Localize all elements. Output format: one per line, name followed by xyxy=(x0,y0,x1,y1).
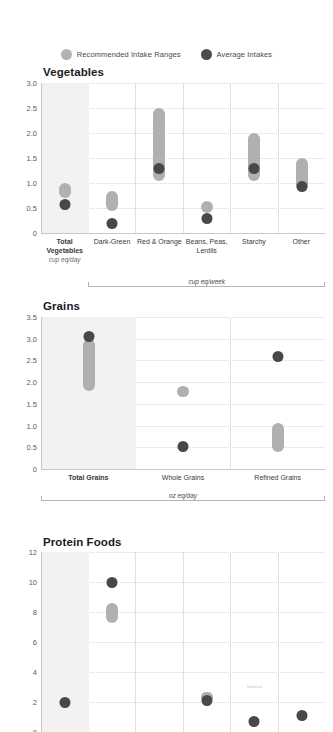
y-axis-tick-label: 1.5 xyxy=(27,154,42,163)
average-intake-dot[interactable] xyxy=(201,213,212,224)
y-axis-tick-label: 0.5 xyxy=(27,443,42,452)
chart-columns: National xyxy=(42,552,325,732)
y-axis-tick-label: 2.5 xyxy=(27,104,42,113)
chart-column[interactable] xyxy=(231,317,325,469)
y-axis-tick-label: 2.0 xyxy=(27,378,42,387)
legend-item-recommended-ranges: Recommended Intake Ranges xyxy=(61,49,181,60)
chart-column[interactable] xyxy=(231,83,279,233)
legend-label-average-intakes: Average Intakes xyxy=(217,50,273,59)
y-axis-tick-label: 10 xyxy=(29,578,42,587)
x-axis-tick-label: Whole Grains xyxy=(136,474,231,483)
recommended-range-bar[interactable] xyxy=(59,183,71,198)
chart-column[interactable] xyxy=(42,552,89,732)
x-axis-labels: Total Vegetablescup eq/dayDark-GreenRed … xyxy=(41,238,325,264)
dark-circle-icon xyxy=(201,49,212,60)
nutrition-chart-page: Recommended Intake Ranges Average Intake… xyxy=(0,0,333,732)
x-axis-tick-label: Refined Grains xyxy=(230,474,325,483)
panel-title-grains: Grains xyxy=(43,300,80,312)
x-axis-tick-label: Red & Orange xyxy=(136,238,183,264)
recommended-range-bar[interactable] xyxy=(106,191,118,211)
chart-column[interactable] xyxy=(184,552,232,732)
chart-column[interactable] xyxy=(279,83,326,233)
chart-column[interactable] xyxy=(89,83,137,233)
chart-column[interactable] xyxy=(42,317,136,469)
average-intake-dot[interactable] xyxy=(178,441,189,452)
group-bracket: oz eq/day xyxy=(41,496,325,501)
chart-legend: Recommended Intake Ranges Average Intake… xyxy=(0,49,333,60)
average-intake-dot[interactable] xyxy=(60,697,71,708)
average-intake-dot[interactable] xyxy=(84,331,95,342)
y-axis-tick-label: 1.5 xyxy=(27,399,42,408)
chart-column[interactable] xyxy=(42,83,89,233)
chart-column[interactable] xyxy=(136,317,231,469)
recommended-range-bar[interactable] xyxy=(106,603,118,623)
panel-title-vegetables: Vegetables xyxy=(43,66,104,78)
average-intake-dot[interactable] xyxy=(154,163,165,174)
chart-column[interactable] xyxy=(184,83,232,233)
x-axis-baseline xyxy=(41,469,325,470)
chart-columns xyxy=(42,317,325,469)
chart-column[interactable]: National xyxy=(231,552,279,732)
chart-columns xyxy=(42,83,325,233)
x-axis-tick-label: Dark-Green xyxy=(88,238,135,264)
average-intake-dot[interactable] xyxy=(106,218,117,229)
y-axis-tick-label: 1.0 xyxy=(27,179,42,188)
y-axis-tick-label: 2.5 xyxy=(27,356,42,365)
recommended-range-bar[interactable] xyxy=(177,386,189,397)
x-axis-tick-label: Total Vegetablescup eq/day xyxy=(41,238,88,264)
plot-area-vegetables: 00.51.01.52.02.53.0 xyxy=(41,83,325,233)
y-axis-tick-label: 3.0 xyxy=(27,334,42,343)
average-intake-dot[interactable] xyxy=(60,199,71,210)
panel-grains: Grains 00.51.01.52.02.53.03.5 Total Grai… xyxy=(0,300,333,522)
chart-column[interactable] xyxy=(136,552,184,732)
y-axis-tick-label: 2.0 xyxy=(27,129,42,138)
average-intake-dot[interactable] xyxy=(273,351,284,362)
x-axis-tick-label: Total Grains xyxy=(41,474,136,483)
x-axis-tick-label: Other xyxy=(278,238,325,264)
average-intake-dot[interactable] xyxy=(106,577,117,588)
group-bracket-label: cup eq/week xyxy=(183,278,230,285)
y-axis-tick-label: 4 xyxy=(33,668,42,677)
chart-column[interactable] xyxy=(89,552,137,732)
x-axis-baseline xyxy=(41,233,325,234)
y-axis-tick-label: 0.5 xyxy=(27,204,42,213)
average-intake-dot[interactable] xyxy=(296,181,307,192)
panel-title-protein-foods: Protein Foods xyxy=(43,536,122,548)
group-bracket: cup eq/week xyxy=(88,282,325,287)
legend-label-recommended-ranges: Recommended Intake Ranges xyxy=(77,50,181,59)
x-axis-tick-label: Beans, Peas, Lentils xyxy=(183,238,230,264)
recommended-range-bar[interactable] xyxy=(83,339,95,391)
group-bracket-label: oz eq/day xyxy=(164,492,202,499)
x-axis-tick-label: Starchy xyxy=(230,238,277,264)
plot-area-protein-foods: 024681012National xyxy=(41,552,325,732)
average-intake-dot[interactable] xyxy=(249,163,260,174)
x-axis-unit-label: cup eq/day xyxy=(42,256,87,264)
y-axis-tick-label: 8 xyxy=(33,608,42,617)
faint-annotation: National xyxy=(247,684,262,689)
gray-circle-icon xyxy=(61,49,72,60)
legend-item-average-intakes: Average Intakes xyxy=(201,49,273,60)
plot-area-grains: 00.51.01.52.02.53.03.5 xyxy=(41,317,325,469)
y-axis-tick-label: 3.0 xyxy=(27,79,42,88)
y-axis-tick-label: 6 xyxy=(33,638,42,647)
y-axis-tick-label: 1.0 xyxy=(27,421,42,430)
x-axis-labels: Total GrainsWhole GrainsRefined Grains xyxy=(41,474,325,483)
chart-column[interactable] xyxy=(136,83,184,233)
recommended-range-bar[interactable] xyxy=(272,423,284,451)
panel-vegetables: Vegetables 00.51.01.52.02.53.0 Total Veg… xyxy=(0,66,333,294)
y-axis-tick-label: 2 xyxy=(33,698,42,707)
average-intake-dot[interactable] xyxy=(249,716,260,727)
average-intake-dot[interactable] xyxy=(296,710,307,721)
chart-column[interactable] xyxy=(279,552,326,732)
y-axis-tick-label: 3.5 xyxy=(27,313,42,322)
recommended-range-bar[interactable] xyxy=(201,201,213,214)
panel-protein-foods: Protein Foods 024681012National xyxy=(0,536,333,732)
average-intake-dot[interactable] xyxy=(201,695,212,706)
y-axis-tick-label: 12 xyxy=(29,548,42,557)
